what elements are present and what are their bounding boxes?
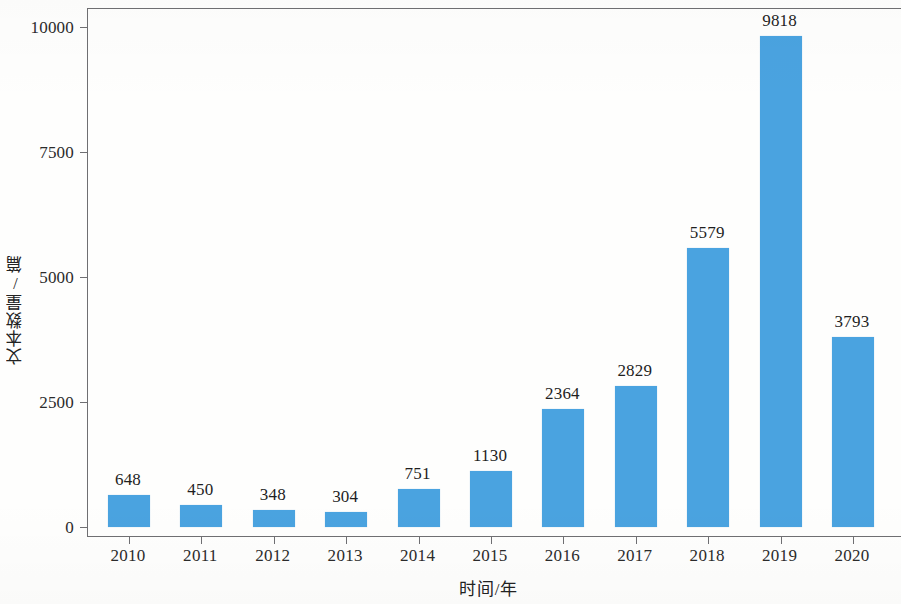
y-axis-tick: 0 [80, 527, 88, 528]
bar [180, 505, 222, 528]
bar-value-label: 2364 [545, 384, 580, 404]
bar [542, 409, 584, 527]
y-axis-tick-label: 0 [65, 518, 74, 538]
x-axis-tick-label: 2013 [328, 546, 363, 566]
bar [470, 471, 512, 528]
bar [687, 248, 729, 527]
x-axis-tick [129, 536, 130, 544]
bar [325, 512, 367, 527]
x-axis-tick [563, 536, 564, 544]
y-axis-tick-label: 2500 [39, 393, 74, 413]
x-axis-tick-label: 2020 [834, 546, 869, 566]
y-axis-title: 文本数量/篇 [8, 255, 30, 365]
bar-value-label: 2829 [617, 361, 652, 381]
x-axis-tick [636, 536, 637, 544]
bar-value-label: 450 [187, 480, 213, 500]
bar-value-label: 304 [332, 487, 358, 507]
x-axis-tick [853, 536, 854, 544]
x-axis-tick [419, 536, 420, 544]
x-axis-tick-label: 2016 [545, 546, 580, 566]
bar-value-label: 9818 [762, 11, 797, 31]
x-axis-tick-label: 2012 [255, 546, 290, 566]
bar-value-label: 3793 [835, 312, 870, 332]
bar [253, 510, 295, 527]
bar-value-label: 1130 [473, 446, 507, 466]
x-axis-tick-label: 2018 [690, 546, 725, 566]
x-axis-tick-label: 2019 [762, 546, 797, 566]
x-axis-tick [708, 536, 709, 544]
x-axis-tick-label: 2011 [183, 546, 218, 566]
x-axis-tick-label: 2014 [400, 546, 435, 566]
bar-chart: 文本数量/篇 025005000750010000 20102011201220… [0, 0, 901, 604]
bar-value-label: 348 [260, 485, 286, 505]
x-axis-title: 时间/年 [0, 575, 901, 600]
x-axis-tick-label: 2017 [617, 546, 652, 566]
bar-value-label: 648 [115, 470, 141, 490]
y-axis-tick: 2500 [80, 402, 88, 403]
x-axis-tick [274, 536, 275, 544]
y-axis-tick-label: 7500 [39, 143, 74, 163]
x-axis-tick-label: 2010 [110, 546, 145, 566]
bar [398, 489, 440, 527]
bar-value-label: 5579 [690, 223, 725, 243]
y-axis-tick-label: 10000 [31, 18, 75, 38]
x-axis-tick [491, 536, 492, 544]
x-axis-title-text: 时间/年 [459, 580, 519, 599]
y-axis-tick: 7500 [80, 152, 88, 153]
bar-value-label: 751 [405, 464, 431, 484]
x-axis-tick [346, 536, 347, 544]
bar [760, 36, 802, 527]
x-axis-tick [201, 536, 202, 544]
y-axis-tick-label: 5000 [39, 268, 74, 288]
x-axis-tick [781, 536, 782, 544]
x-axis-tick-label: 2015 [472, 546, 507, 566]
bar [108, 495, 150, 527]
y-axis-tick: 5000 [80, 277, 88, 278]
bar [615, 386, 657, 527]
bar [832, 337, 874, 527]
y-axis-tick: 10000 [80, 27, 88, 28]
